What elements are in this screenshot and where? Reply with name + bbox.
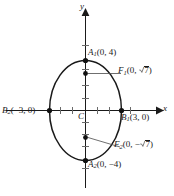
focus-bottom-coords-prefix: (0, − [123, 139, 140, 149]
covertex-right-coords: (3, 0) [130, 112, 150, 122]
point-focus-top [83, 71, 88, 76]
vertex-bottom-coords: (0, −4) [97, 159, 122, 169]
radical-overbar [144, 66, 149, 67]
covertex-left-label: B2(−3, 0) [2, 106, 35, 116]
focus-top-coords-suffix: ) [149, 65, 152, 75]
center-label-name: C [78, 111, 84, 121]
center-label: C [78, 112, 84, 121]
covertex-left-coords: (−3, 0) [11, 105, 36, 115]
y-axis-label: y [80, 1, 84, 11]
focus-bottom-coords-suffix: ) [150, 139, 153, 149]
focus-bottom-label: F2(0, − 7) [114, 140, 153, 150]
vertex-bottom-label: A2(0, −4) [88, 160, 121, 170]
x-axis-label: x [163, 103, 167, 113]
point-vertex-top [83, 58, 88, 63]
point-focus-bottom [83, 135, 88, 140]
vertex-top-label: A1(0, 4) [88, 48, 116, 58]
point-covertex-left [47, 108, 52, 113]
focus-top-label: F1(0, 7) [118, 66, 152, 76]
diagram-canvas [0, 0, 174, 196]
radical-overbar [145, 140, 150, 141]
focus-bottom-radical: 7 [140, 140, 150, 149]
focus-top-coords-prefix: (0, [127, 65, 139, 75]
focus-top-radical: 7 [139, 66, 149, 75]
ellipse-figure: y x C A1(0, 4) A2(0, −4) B1(3, 0) B2(−3,… [0, 0, 174, 196]
covertex-right-label: B1(3, 0) [121, 113, 149, 123]
vertex-top-coords: (0, 4) [97, 47, 117, 57]
